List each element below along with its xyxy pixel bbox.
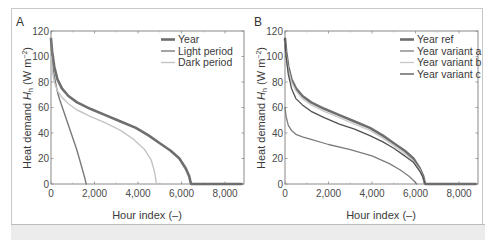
y-tick-label: 100	[266, 51, 283, 62]
panel-a: A 02,0004,0006,0008,000020406080100120 H…	[16, 15, 244, 221]
y-tick-label: 80	[272, 77, 284, 88]
legend-entry: Year variant b	[417, 56, 482, 68]
panel-b-x-axis-title: Hour index (–)	[346, 209, 416, 221]
x-tick-label: 0	[48, 188, 54, 199]
x-tick-label: 8,000	[447, 188, 472, 199]
y-tick-label: 60	[38, 102, 50, 113]
panel-a-legend: YearLight periodDark period	[161, 33, 233, 68]
x-tick-label: 4,000	[126, 188, 151, 199]
x-tick-label: 4,000	[360, 188, 385, 199]
y-tick-label: 100	[32, 51, 49, 62]
y-tick-label: 120	[266, 26, 283, 37]
x-tick-label: 8,000	[213, 188, 238, 199]
x-tick-label: 2,000	[82, 188, 107, 199]
legend-entry: Light period	[178, 45, 233, 57]
legend-entry: Year variant a	[417, 45, 482, 57]
y-tick-label: 20	[38, 153, 50, 164]
figure-canvas: A 02,0004,0006,0008,000020406080100120 H…	[0, 0, 496, 240]
y-tick-label: 80	[38, 77, 50, 88]
x-tick-label: 2,000	[316, 188, 341, 199]
panel-a-x-axis-title: Hour index (–)	[112, 209, 182, 221]
y-tick-label: 60	[272, 102, 284, 113]
series-line	[285, 39, 425, 184]
panel-b-legend: Year refYear variant aYear variant bYear…	[400, 33, 482, 80]
legend-entry: Year variant c	[417, 68, 481, 80]
y-tick-label: 20	[272, 153, 284, 164]
legend-entry: Year ref	[417, 33, 453, 45]
panel-b: B 02,0004,0006,0008,000020406080100120 H…	[254, 15, 482, 221]
panel-b-y-axis-title: Heat demand Hh (W m−2)	[255, 47, 268, 169]
y-tick-label: 120	[32, 26, 49, 37]
y-tick-label: 40	[38, 128, 50, 139]
x-tick-label: 6,000	[169, 188, 194, 199]
legend-entry: Year	[178, 33, 200, 45]
y-tick-label: 0	[277, 179, 283, 190]
panel-a-label: A	[16, 15, 24, 29]
y-tick-label: 40	[272, 128, 284, 139]
panel-a-y-axis-title: Heat demand Hh (W m−2)	[21, 47, 34, 169]
panel-b-label: B	[254, 15, 262, 29]
x-tick-label: 0	[282, 188, 288, 199]
x-tick-label: 6,000	[403, 188, 428, 199]
y-tick-label: 0	[43, 179, 49, 190]
legend-entry: Dark period	[178, 56, 232, 68]
